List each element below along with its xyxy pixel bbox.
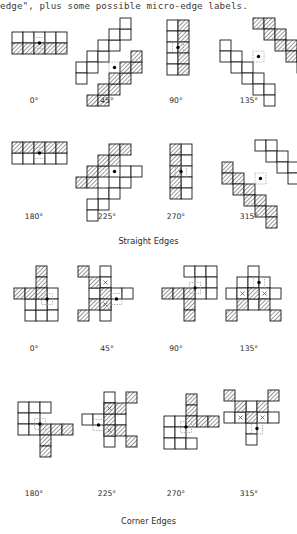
hatched-cell [224,390,235,401]
hatched-cell [170,144,181,155]
angle-label: 180° [20,489,48,498]
white-cell [164,416,175,427]
white-cell [255,140,266,151]
angle-label: 270° [162,489,190,498]
white-cell [98,199,109,210]
white-cell [266,151,277,162]
hatched-cell [248,288,259,299]
white-cell [270,288,281,299]
angle-label: 225° [93,489,121,498]
hatched-cell [36,277,47,288]
white-cell [109,40,120,51]
hatched-cell [12,142,23,153]
white-cell [264,95,275,106]
white-cell [12,153,23,164]
hatched-cell [178,53,189,64]
hatched-cell [222,173,233,184]
center-dot-marker [113,66,116,69]
center-dot-marker [193,286,196,289]
hatched-cell [109,155,120,166]
white-cell [266,140,277,151]
center-dot-marker [38,151,41,154]
hatched-cell [184,310,195,321]
group-caption: Straight Edges [0,236,297,246]
white-cell [181,144,192,155]
white-cell [206,288,217,299]
center-dot-marker [259,177,262,180]
hatched-cell [98,155,109,166]
hatched-cell [23,43,34,54]
white-cell [167,20,178,31]
white-cell [56,32,67,43]
hatched-cell [115,403,126,414]
white-cell [109,29,120,40]
hatched-cell [23,142,34,153]
hatched-cell [89,299,100,310]
white-cell [186,438,197,449]
hatched-cell [56,43,67,54]
hatched-cell [264,29,275,40]
white-cell [104,436,115,447]
hatched-cell [178,31,189,42]
hatched-cell [170,177,181,188]
hatched-cell [56,142,67,153]
hatched-cell [36,266,47,277]
hatched-cell [275,40,286,51]
angle-label: 45° [93,96,121,105]
white-cell [231,62,242,73]
hatched-cell [45,142,56,153]
page-text-line: edge", plus some possible micro-edge lab… [0,0,297,11]
angle-label: 315° [235,212,263,221]
white-cell [29,402,40,413]
white-cell [288,173,297,184]
edge-template-straight-270 [166,140,196,203]
edge-template-corner-180 [14,398,77,461]
white-cell [98,40,109,51]
white-cell [181,155,192,166]
white-cell [120,166,131,177]
hatched-cell [268,390,279,401]
white-cell [109,177,120,188]
hatched-cell [264,18,275,29]
white-cell [175,438,186,449]
hatched-cell [222,162,233,173]
white-cell [45,153,56,164]
white-cell [109,188,120,199]
angle-label: 90° [162,96,190,105]
edge-template-straight-0 [8,28,71,58]
center-dot-marker [38,41,41,44]
white-cell [164,427,175,438]
white-cell [242,62,253,73]
center-dot-marker [45,297,48,300]
white-cell [115,414,126,425]
white-cell [248,266,259,277]
hatched-cell [255,195,266,206]
hatched-cell [237,299,248,310]
white-cell [268,412,279,423]
hatched-cell [186,394,197,405]
hatched-cell [89,277,100,288]
hatched-cell [286,51,297,62]
hatched-cell [186,405,197,416]
hatched-cell [87,177,98,188]
hatched-cell [246,412,257,423]
hatched-cell [98,84,109,95]
white-cell [288,162,297,173]
angle-label: 270° [162,212,190,221]
edge-template-straight-180 [8,138,71,168]
hatched-cell [257,401,268,412]
hatched-cell [270,310,281,321]
white-cell [226,288,237,299]
center-dot-marker [255,427,258,430]
edge-template-corner-0 [10,262,62,325]
hatched-cell [40,435,51,446]
white-cell [45,32,56,43]
white-cell [12,32,23,43]
angle-label: 135° [235,344,263,353]
white-cell [87,199,98,210]
hatched-cell [45,43,56,54]
white-cell [220,51,231,62]
white-cell [120,177,131,188]
hatched-cell [131,62,142,73]
hatched-cell [109,84,120,95]
